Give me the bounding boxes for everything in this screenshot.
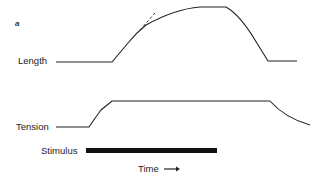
right-arrow-icon [164,167,180,172]
tension-trace [56,101,310,127]
diagram-canvas [0,0,324,186]
stimulus-bar [86,148,217,153]
length-trace [56,7,297,62]
